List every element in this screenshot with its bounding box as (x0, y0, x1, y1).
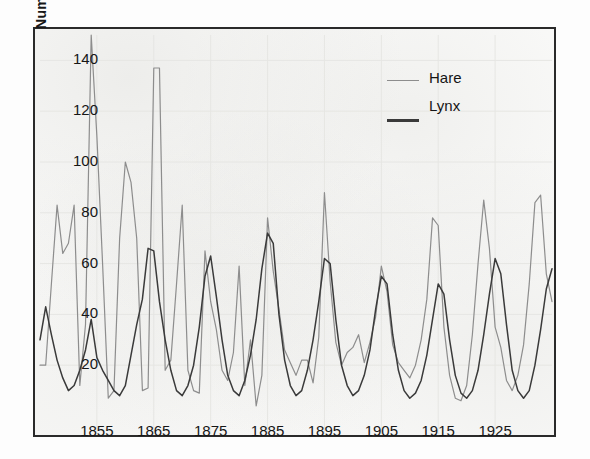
y-axis-title: Number (thousands) (33, 0, 55, 29)
x-tick-label-1895: 1895 (294, 422, 354, 439)
x-tick-label-1855: 1855 (67, 422, 127, 439)
legend-label-lynx: Lynx (429, 97, 460, 114)
legend-swatch-lynx-icon (387, 119, 419, 122)
x-tick-label-1925: 1925 (465, 422, 525, 439)
y-axis-title-bold: Number (33, 0, 49, 29)
x-tick-label-1905: 1905 (351, 422, 411, 439)
y-tick-label-20: 20 (58, 355, 98, 372)
chart-legend: Hare Lynx (387, 69, 507, 125)
y-tick-label-100: 100 (58, 152, 98, 169)
y-tick-label-40: 40 (58, 304, 98, 321)
x-tick-label-1885: 1885 (238, 422, 298, 439)
x-tick-label-1915: 1915 (408, 422, 468, 439)
legend-swatch-hare-icon (387, 80, 419, 81)
chart-figure-frame: Number (thousands) 20406080100120140 185… (33, 27, 556, 437)
x-tick-label-1865: 1865 (124, 422, 184, 439)
y-tick-label-120: 120 (58, 101, 98, 118)
x-tick-label-1875: 1875 (181, 422, 241, 439)
y-tick-label-80: 80 (58, 203, 98, 220)
y-tick-label-60: 60 (58, 254, 98, 271)
y-tick-label-140: 140 (58, 50, 98, 67)
figure-page: Number (thousands) 20406080100120140 185… (0, 0, 590, 459)
legend-label-hare: Hare (429, 69, 462, 86)
